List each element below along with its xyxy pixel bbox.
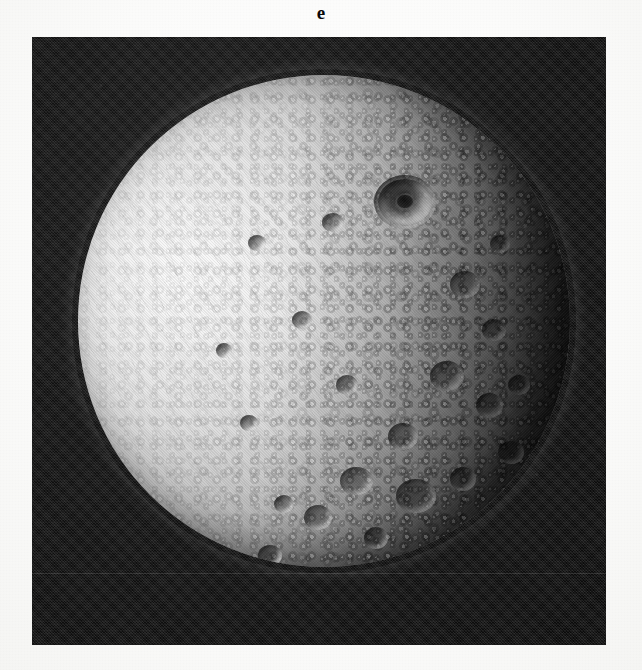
crater-feature [322,213,344,232]
crater-feature [258,545,282,566]
crater-feature [216,343,232,358]
crater-feature [388,423,418,450]
crater-feature [248,235,266,251]
crater-feature [336,375,358,395]
crater-feature [508,375,530,395]
large-ringed-crater-with-central-peak [378,179,432,225]
crater-feature [292,311,312,329]
crater-feature [476,393,503,418]
horizontal-scanline-artifact [32,573,606,574]
crater-feature [450,271,480,298]
crater-feature [304,505,332,530]
panel-label: e [0,2,642,24]
crater-feature [240,415,258,431]
crater-feature [430,361,464,391]
crater-feature [498,441,524,464]
crater-feature [364,527,388,549]
photograph-frame [32,37,606,645]
crater-feature [274,495,294,513]
crater-feature [396,479,436,513]
crater-feature [428,541,458,567]
crater-feature [490,235,510,253]
crater-feature [340,467,373,495]
crater-feature [450,467,476,491]
figure-page: e [0,0,642,670]
moon-disk [78,75,570,567]
crater-feature [482,319,506,341]
